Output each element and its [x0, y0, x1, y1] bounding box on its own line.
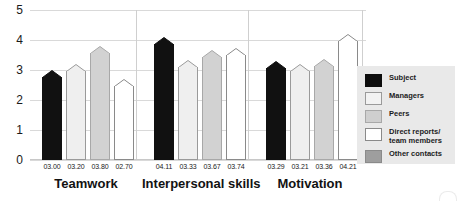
- swatch-subject-icon: [365, 74, 382, 87]
- bar-body: [202, 57, 222, 160]
- swatch-peers-icon: [365, 110, 382, 123]
- bar-value-label: 03.80: [87, 163, 113, 170]
- chart-legend: SubjectManagersPeersDirect reports/ team…: [357, 66, 455, 164]
- bar-peers-motivation: [314, 59, 334, 160]
- y-axis-tick-label: 1: [16, 124, 23, 136]
- bar-subject-interpersonal-skills: [154, 37, 174, 160]
- legend-item-subject[interactable]: Subject: [365, 74, 416, 87]
- corner-mark-decoration: [439, 191, 457, 201]
- bar-body: [114, 86, 134, 160]
- bar-subject-teamwork: [42, 70, 62, 160]
- y-axis-tick-label: 0: [16, 154, 23, 166]
- bar-body: [226, 55, 246, 160]
- y-gridline: [30, 160, 366, 161]
- bar-body: [90, 53, 110, 160]
- bar-direct-reports-team-members-teamwork: [114, 79, 134, 160]
- legend-item-label: Subject: [389, 74, 416, 83]
- y-axis-tick-label: 2: [16, 94, 23, 106]
- bar-managers-interpersonal-skills: [178, 60, 198, 160]
- bar-body: [338, 41, 358, 160]
- bar-value-label: 03.74: [223, 163, 249, 170]
- category-label: Interpersonal skills: [142, 176, 254, 191]
- bar-direct-reports-team-members-interpersonal-skills: [226, 48, 246, 160]
- bar-managers-teamwork: [66, 64, 86, 160]
- legend-item-label: Direct reports/ team members: [389, 128, 442, 145]
- bar-body: [154, 44, 174, 160]
- bar-value-label: 03.36: [311, 163, 337, 170]
- group-separator: [136, 10, 137, 160]
- bar-body: [178, 67, 198, 160]
- bar-value-label: 03.00: [39, 163, 65, 170]
- group-separator: [248, 10, 249, 160]
- y-gridline: [30, 40, 366, 41]
- category-label: Teamwork: [30, 176, 142, 191]
- bar-body: [42, 77, 62, 160]
- legend-item-peers[interactable]: Peers: [365, 110, 409, 123]
- swatch-other-contacts-icon: [365, 150, 382, 163]
- y-gridline: [30, 10, 366, 11]
- grouped-bar-chart: 01234503.0003.2003.8002.70Teamwork04.110…: [0, 0, 459, 202]
- bar-body: [314, 66, 334, 160]
- plot-area: 01234503.0003.2003.8002.70Teamwork04.110…: [30, 10, 366, 160]
- legend-item-managers[interactable]: Managers: [365, 92, 424, 105]
- bar-body: [290, 71, 310, 160]
- bar-direct-reports-team-members-motivation: [338, 34, 358, 160]
- bar-value-label: 03.20: [63, 163, 89, 170]
- legend-item-other-contacts[interactable]: Other contacts: [365, 150, 442, 163]
- bar-managers-motivation: [290, 64, 310, 160]
- legend-item-label: Managers: [389, 92, 424, 101]
- bar-subject-motivation: [266, 61, 286, 160]
- bar-value-label: 04.21: [335, 163, 361, 170]
- swatch-managers-icon: [365, 92, 382, 105]
- y-axis-tick-label: 5: [16, 4, 23, 16]
- swatch-direct-reports-icon: [365, 128, 382, 141]
- y-axis-tick-label: 3: [16, 64, 23, 76]
- y-axis-tick-label: 4: [16, 34, 23, 46]
- bar-value-label: 03.29: [263, 163, 289, 170]
- legend-item-direct-reports-team-members[interactable]: Direct reports/ team members: [365, 128, 442, 145]
- bar-peers-interpersonal-skills: [202, 50, 222, 160]
- bar-value-label: 03.33: [175, 163, 201, 170]
- bar-value-label: 03.21: [287, 163, 313, 170]
- bar-value-label: 04.11: [151, 163, 177, 170]
- legend-item-label: Other contacts: [389, 150, 442, 159]
- bar-body: [66, 71, 86, 160]
- bar-body: [266, 68, 286, 160]
- bar-peers-teamwork: [90, 46, 110, 160]
- bar-value-label: 02.70: [111, 163, 137, 170]
- category-label: Motivation: [254, 176, 366, 191]
- bar-value-label: 03.67: [199, 163, 225, 170]
- legend-item-label: Peers: [389, 110, 409, 119]
